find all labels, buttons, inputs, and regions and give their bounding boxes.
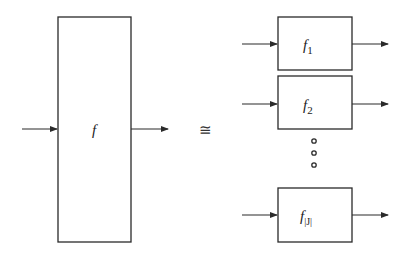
function-decomposition-diagram: f ≅ f1 f2 f|J| bbox=[0, 0, 410, 255]
ellipsis-dot bbox=[312, 139, 316, 143]
function-f2-block: f2 bbox=[242, 76, 388, 129]
function-f-label: f bbox=[92, 122, 98, 138]
function-f1-box bbox=[278, 17, 352, 70]
function-f1-label: f1 bbox=[303, 37, 313, 56]
function-fJ-box bbox=[278, 188, 352, 242]
isomorphism-symbol: ≅ bbox=[199, 121, 212, 139]
function-f2-box bbox=[278, 76, 352, 129]
function-f2-label: f2 bbox=[303, 97, 313, 116]
function-fJ-label: f|J| bbox=[300, 208, 312, 227]
function-f1-block: f1 bbox=[242, 17, 388, 70]
function-fJ-block: f|J| bbox=[242, 188, 388, 242]
vertical-ellipsis bbox=[312, 139, 316, 167]
function-f-block: f bbox=[22, 17, 168, 242]
ellipsis-dot bbox=[312, 163, 316, 167]
ellipsis-dot bbox=[312, 151, 316, 155]
